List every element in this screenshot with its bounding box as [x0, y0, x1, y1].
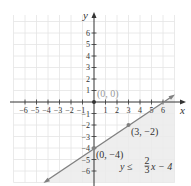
y-tick-label: −6 [81, 167, 90, 176]
inequality-graph: −6 −5 −4 −3 −2 −1 1 2 3 4 5 6 6 5 4 3 2 … [0, 0, 191, 186]
x-tick-label: −6 [19, 106, 28, 115]
x-tick-label: −2 [65, 106, 74, 115]
origin-point-label: (0, 0) [97, 88, 119, 100]
x-tick-label: −3 [54, 106, 63, 115]
y-tick-label: 6 [86, 29, 90, 38]
x-axis-label: x [179, 104, 185, 116]
y-tick-label: −1 [81, 110, 90, 119]
x-tick-label: 4 [138, 106, 142, 115]
y-tick-label: −3 [81, 133, 90, 142]
point-a-label: (3, −2) [131, 126, 158, 138]
x-tick-label: −5 [31, 106, 40, 115]
inequality-rhs: x − 4 [150, 161, 172, 172]
y-axis-label: y [82, 9, 88, 21]
x-tick-label: 6 [161, 106, 165, 115]
y-tick-label: 4 [86, 52, 90, 61]
y-tick-label: 3 [86, 63, 90, 72]
fraction-denominator: 3 [145, 164, 150, 175]
point-b-label: (0, −4) [96, 149, 123, 161]
x-tick-label: 3 [127, 106, 131, 115]
y-tick-label: −2 [81, 121, 90, 130]
inequality-lhs: y ≤ [119, 161, 133, 172]
x-tick-label: 1 [104, 106, 108, 115]
y-tick-label: 1 [86, 86, 90, 95]
point-3-neg2 [127, 123, 131, 127]
y-tick-label: 2 [86, 75, 90, 84]
y-axis-arrow-icon [92, 12, 97, 18]
x-tick-label: −4 [42, 106, 51, 115]
x-tick-label: 2 [115, 106, 119, 115]
y-tick-label: 5 [86, 40, 90, 49]
origin-test-point [92, 100, 96, 104]
